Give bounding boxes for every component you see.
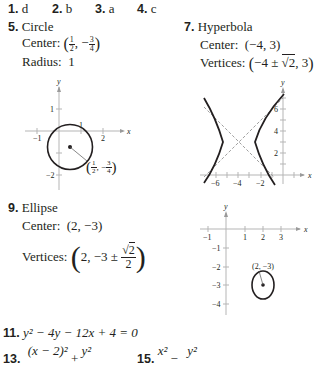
svg-text:(2, −3): (2, −3)	[252, 262, 274, 271]
operator: +	[71, 351, 78, 366]
svg-text:−1: −1	[212, 244, 221, 253]
numerator: (x − 2)²	[28, 343, 68, 358]
operator: −	[171, 351, 178, 366]
svg-text:1: 1	[243, 233, 247, 242]
problem-number: 11.	[3, 326, 20, 340]
problem-number: 15.	[137, 352, 154, 366]
problem-11: 11. y² − 4y − 12x + 4 = 0	[3, 325, 138, 341]
svg-text:2: 2	[261, 233, 265, 242]
svg-text:−2: −2	[212, 263, 221, 272]
numerator: y²	[82, 343, 92, 358]
svg-text:−3: −3	[212, 281, 221, 290]
svg-text:−1: −1	[203, 233, 212, 242]
svg-text:x: x	[303, 225, 308, 234]
svg-text:y: y	[223, 202, 228, 211]
svg-text:−4: −4	[212, 300, 221, 309]
problem-15: 15. x² − y²	[137, 343, 197, 359]
numerator: y²	[187, 343, 197, 358]
problem-13: 13. (x − 2)² + y²	[3, 343, 91, 359]
problem-number: 13.	[3, 352, 20, 366]
numerator: x²	[158, 343, 168, 358]
svg-text:3: 3	[279, 233, 283, 242]
equation: y² − 4y − 12x + 4 = 0	[23, 325, 138, 340]
